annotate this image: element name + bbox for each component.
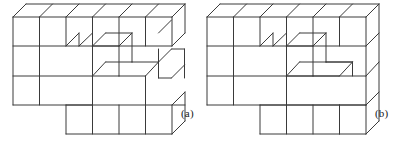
panel-b-edge-25 [273, 33, 287, 46]
panel-a-edge-12 [40, 4, 53, 17]
panel-b-edge-14 [287, 4, 300, 17]
panel-a-edge-14 [93, 4, 106, 17]
panel-a-drawing [13, 4, 185, 134]
panel-a-edge-34 [146, 62, 159, 76]
panel-b-edge-27 [287, 33, 300, 46]
panel-b-edge-17 [366, 4, 379, 17]
panel-a-caption: (a) [181, 107, 194, 119]
panel-a-edge-15 [119, 4, 132, 17]
cube-figures-svg [0, 0, 402, 142]
panel-b-edge-33 [287, 62, 300, 76]
panel-a-edge-17 [172, 4, 185, 17]
panel-b-edge-12 [234, 4, 247, 17]
panel-b-edge-23 [260, 33, 273, 46]
panel-b-edge-16 [340, 4, 353, 17]
panel-a-edge-47 [172, 92, 185, 105]
panel-b-edge-15 [313, 4, 326, 17]
panel-b-edge-13 [260, 4, 273, 17]
panel-a-edge-20 [172, 33, 185, 46]
panel-a-edge-25 [93, 33, 106, 46]
panel-a-edge-28 [119, 33, 132, 46]
panel-b-edge-21 [366, 62, 379, 76]
panel-b-edge-20 [366, 33, 379, 46]
panel-a-edge-37 [159, 49, 172, 62]
panel-b-edge-30 [313, 33, 326, 46]
panel-b-edge-11 [207, 4, 220, 17]
panel-a-edge-23 [79, 33, 93, 46]
figure-container: (a) (b) [0, 0, 402, 142]
panel-a-edge-21 [66, 33, 79, 46]
panel-a-edge-13 [66, 4, 79, 17]
panel-b-edge-45 [366, 121, 379, 134]
panel-b-drawing [207, 4, 379, 134]
panel-a-edge-11 [13, 4, 26, 17]
panel-a-edge-53 [172, 65, 185, 78]
panel-b-caption: (b) [375, 107, 388, 119]
panel-a-edge-39 [159, 20, 172, 33]
panel-a-edge-16 [146, 4, 159, 17]
panel-b-edge-22 [366, 92, 379, 105]
panel-a-edge-49 [172, 121, 185, 134]
panel-a-edge-31 [93, 62, 106, 76]
panel-b-edge-36 [340, 62, 353, 76]
